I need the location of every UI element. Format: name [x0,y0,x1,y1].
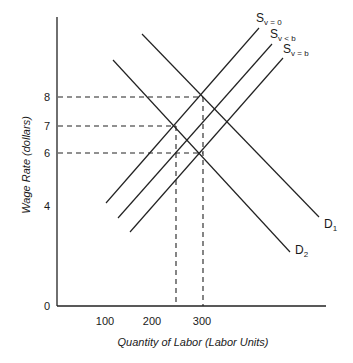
label-d2: D2 [295,243,309,259]
label-s-v-lt-b: Sv < b [270,27,296,43]
x-tick-200: 200 [143,315,161,327]
y-tick-0: 0 [44,300,50,312]
label-s-v-0: Sv = 0 [256,11,282,27]
reference-lines [58,97,203,306]
supply-curve-v-eq-b [130,58,283,232]
supply-curve-v-0 [106,28,259,203]
label-s-v-eq-b: Sv = b [283,42,309,58]
x-tick-100: 100 [96,315,114,327]
demand-curve-d2 [113,60,290,252]
y-axis-title: Wage Rate (dollars) [20,116,32,214]
x-axis-title: Quantity of Labor (Labor Units) [117,336,268,348]
y-tick-7: 7 [44,120,50,132]
y-tick-8: 8 [44,91,50,103]
x-tick-300: 300 [193,315,211,327]
label-d1: D1 [324,217,338,233]
y-tick-6: 6 [44,147,50,159]
supply-curve-v-lt-b [118,44,272,218]
y-tick-4: 4 [44,200,50,212]
labor-market-chart: Sv = 0 Sv < b Sv = b D1 D2 8 7 6 4 0 100… [0,0,353,363]
